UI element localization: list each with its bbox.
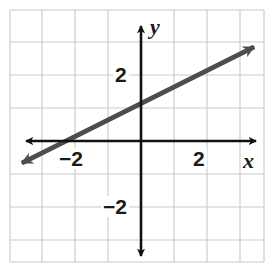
grid-lines [10,10,264,262]
y-axis-name-label: y [150,16,160,38]
graph-canvas [0,0,272,269]
linear-function-line [22,47,254,163]
x-axis-tick-label-2: 2 [191,148,207,169]
x-axis-tick-label-negative-2: −2 [57,148,85,169]
y-axis-tick-label-negative-2: −2 [101,196,129,217]
coordinate-plane-figure: 2 −2 2 −2 x y [0,0,272,269]
x-axis-name-label: x [243,150,254,172]
y-axis-tick-label-2: 2 [113,64,129,85]
